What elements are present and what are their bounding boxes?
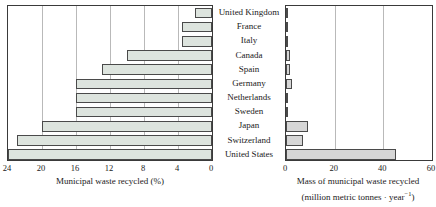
bar — [286, 64, 290, 75]
category-label: Canada — [213, 48, 285, 62]
bar-row — [8, 134, 212, 148]
category-label: Netherlands — [213, 90, 285, 104]
bar-row — [286, 6, 432, 20]
x-tick-label: 60 — [419, 163, 436, 173]
bar — [8, 149, 212, 160]
x-tick-label: 20 — [322, 163, 346, 173]
bar — [102, 64, 213, 75]
bar — [286, 8, 288, 19]
bar — [286, 79, 292, 90]
bar — [286, 22, 288, 33]
bar — [286, 135, 303, 146]
right-panel-plot-area — [285, 5, 433, 161]
x-tick-label: 0 — [273, 163, 297, 173]
right-axis-title-line1: Mass of municipal waste recycled — [280, 176, 436, 188]
bar — [286, 93, 288, 104]
bar-row — [286, 91, 432, 105]
bar-row — [8, 34, 212, 48]
bar — [286, 107, 288, 118]
bar — [195, 8, 212, 19]
bar-row — [8, 63, 212, 77]
bar-row — [286, 34, 432, 48]
bar-row — [286, 134, 432, 148]
bar — [76, 93, 212, 104]
left-axis-title: Municipal waste recycled (%) — [7, 176, 213, 188]
category-label: Spain — [213, 62, 285, 76]
x-tick-label: 20 — [29, 163, 53, 173]
category-label: Sweden — [213, 104, 285, 118]
bar — [286, 121, 308, 132]
bar — [76, 107, 212, 118]
category-label: United States — [213, 147, 285, 161]
x-tick-label: 8 — [131, 163, 155, 173]
x-tick-label: 40 — [370, 163, 394, 173]
bar — [127, 50, 212, 61]
bar — [286, 50, 290, 61]
right-axis-title-line2-suffix: ) — [411, 192, 414, 202]
right-axis-title-line2: (million metric tonnes · year−1) — [280, 188, 436, 204]
figure-container: United KingdomFranceItalyCanadaSpainGerm… — [0, 0, 436, 207]
category-label: Germany — [213, 76, 285, 90]
bar-row — [286, 20, 432, 34]
bar-row — [286, 119, 432, 133]
left-panel-plot-area — [7, 5, 213, 161]
right-axis-title-line2-prefix: (million metric tonnes · year — [302, 192, 405, 202]
bar-row — [8, 119, 212, 133]
bar-row — [8, 6, 212, 20]
bar-row — [8, 49, 212, 63]
bar-row — [286, 63, 432, 77]
category-label: France — [213, 19, 285, 33]
x-tick-label: 12 — [97, 163, 121, 173]
bar-row — [8, 20, 212, 34]
bar — [286, 149, 396, 160]
bar — [42, 121, 212, 132]
category-label: Japan — [213, 118, 285, 132]
bar-row — [286, 148, 432, 162]
category-label: Switzerland — [213, 133, 285, 147]
bar-row — [286, 77, 432, 91]
bar-row — [8, 77, 212, 91]
bar-row — [286, 49, 432, 63]
bar-row — [8, 91, 212, 105]
category-label: Italy — [213, 33, 285, 47]
bar-row — [8, 105, 212, 119]
bar — [76, 79, 212, 90]
bar-row — [286, 105, 432, 119]
bar — [182, 36, 212, 47]
x-tick-label: 24 — [0, 163, 19, 173]
bar — [17, 135, 213, 146]
x-tick-label: 16 — [63, 163, 87, 173]
bar — [286, 36, 288, 47]
category-label: United Kingdom — [213, 5, 285, 19]
bar-row — [8, 148, 212, 162]
left-axis-title-text: Municipal waste recycled (%) — [56, 176, 164, 186]
x-tick-label: 0 — [199, 163, 223, 173]
x-tick-label: 4 — [165, 163, 189, 173]
bar — [182, 22, 212, 33]
category-axis-labels: United KingdomFranceItalyCanadaSpainGerm… — [213, 5, 285, 161]
right-axis-title: Mass of municipal waste recycled (millio… — [280, 176, 436, 203]
